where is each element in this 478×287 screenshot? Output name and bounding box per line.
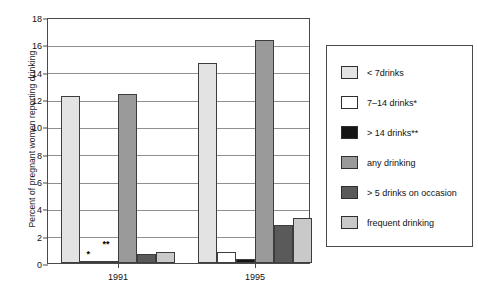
bar (236, 259, 255, 263)
bar (137, 254, 156, 263)
y-axis-tick-mark (43, 183, 48, 184)
y-axis-tick-mark (43, 101, 48, 102)
chart-figure: Percent of pregnant women reporting drin… (0, 0, 478, 287)
y-axis-tick-label: 14 (32, 69, 42, 79)
y-axis-tick-mark (43, 265, 48, 266)
y-axis-tick-label: 4 (37, 205, 42, 215)
bar (274, 225, 293, 263)
y-axis-tick-label: 10 (32, 123, 42, 133)
x-axis-tick-mark (118, 263, 119, 268)
legend-swatch-icon (341, 216, 358, 229)
legend-item-label: 7–14 drinks* (367, 98, 417, 108)
bar (61, 96, 80, 263)
y-axis-tick-label: 18 (32, 14, 42, 24)
y-axis-tick-mark (43, 128, 48, 129)
y-axis-tick-label: 16 (32, 41, 42, 51)
y-axis-tick-mark (43, 210, 48, 211)
bar (118, 94, 137, 263)
legend-item[interactable]: any drinking (341, 156, 416, 169)
bar (80, 261, 99, 263)
bar (293, 218, 312, 263)
legend-item-label: < 7drinks (367, 68, 404, 78)
bar-group: *** (61, 19, 179, 263)
legend-swatch-icon (341, 126, 358, 139)
y-axis-tick-mark (43, 46, 48, 47)
y-axis-tick-mark (43, 237, 48, 238)
significance-annotation: * (87, 250, 91, 259)
y-axis-tick-label: 12 (32, 96, 42, 106)
y-axis-tick-mark (43, 155, 48, 156)
bar (217, 252, 236, 263)
plot-area: 024681012141618***19911995 (47, 18, 310, 264)
y-axis-tick-label: 0 (37, 260, 42, 270)
x-axis-tick-label: 1995 (245, 272, 265, 282)
y-axis-tick-label: 8 (37, 151, 42, 161)
legend-item[interactable]: < 7drinks (341, 66, 404, 79)
legend-swatch-icon (341, 156, 358, 169)
y-axis-tick-label: 2 (37, 233, 42, 243)
y-axis-title: Percent of pregnant women reporting drin… (27, 19, 37, 259)
legend-item-label: any drinking (367, 158, 416, 168)
bar (198, 63, 217, 263)
legend-item-label: > 14 drinks** (367, 128, 418, 138)
bar (255, 40, 274, 263)
bar (156, 252, 175, 263)
chart-legend: < 7drinks7–14 drinks*> 14 drinks**any dr… (326, 45, 473, 247)
legend-item-label: > 5 drinks on occasion (367, 188, 457, 198)
x-axis-tick-label: 1991 (108, 272, 128, 282)
significance-annotation: ** (103, 240, 110, 249)
legend-swatch-icon (341, 186, 358, 199)
x-axis-tick-mark (255, 263, 256, 268)
y-axis-tick-mark (43, 73, 48, 74)
bar-group (198, 19, 316, 263)
legend-item-label: frequent drinking (367, 218, 434, 228)
legend-item[interactable]: frequent drinking (341, 216, 434, 229)
y-axis-tick-label: 6 (37, 178, 42, 188)
legend-swatch-icon (341, 96, 358, 109)
legend-item[interactable]: 7–14 drinks* (341, 96, 417, 109)
legend-item[interactable]: > 14 drinks** (341, 126, 418, 139)
bar (99, 261, 118, 263)
legend-item[interactable]: > 5 drinks on occasion (341, 186, 457, 199)
legend-swatch-icon (341, 66, 358, 79)
y-axis-tick-mark (43, 19, 48, 20)
